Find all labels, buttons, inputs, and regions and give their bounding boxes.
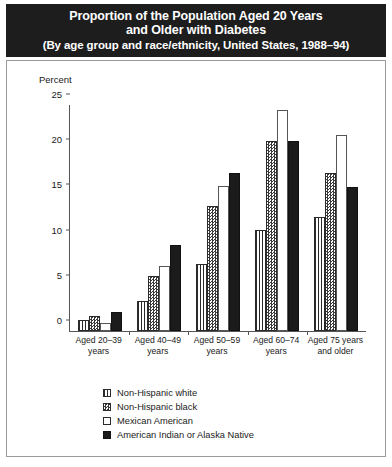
y-axis-tick-label: 25	[51, 89, 62, 100]
bar	[314, 217, 325, 331]
legend-label: American Indian or Alaska Native	[117, 430, 254, 440]
y-axis-unit-label: Percent	[39, 74, 72, 85]
bar-group	[70, 105, 129, 331]
x-axis-label-line: and older	[306, 346, 365, 357]
chart-page: Proportion of the Population Aged 20 Yea…	[0, 0, 392, 467]
bar	[100, 323, 111, 331]
bar	[78, 320, 89, 331]
x-axis-label: Aged 20–39years	[69, 335, 128, 357]
y-axis-tick: 10	[51, 224, 70, 235]
page-title-line-2: and Older with Diabetes	[126, 23, 266, 38]
bar	[196, 264, 207, 331]
plot-wrapper: Percent 0510152025 Aged 20–39yearsAged 4…	[7, 61, 387, 458]
x-axis-label-line: Aged 60–74	[247, 335, 306, 346]
x-axis-label-line: years	[69, 346, 128, 357]
bar	[148, 276, 159, 331]
x-axis-label: Aged 75 yearsand older	[306, 335, 365, 357]
bar	[325, 173, 336, 331]
x-axis-label-line: years	[128, 346, 187, 357]
bar-group	[129, 105, 188, 331]
bar	[266, 141, 277, 331]
legend-item[interactable]: Mexican American	[103, 414, 343, 428]
y-axis-tick: 0	[57, 315, 70, 326]
page-subtitle: (By age group and race/ethnicity, United…	[43, 38, 350, 53]
legend-swatch-icon	[103, 417, 111, 425]
y-axis-tick-label: 20	[51, 134, 62, 145]
x-axis-label-line: years	[247, 346, 306, 357]
bar	[89, 316, 100, 331]
bar	[229, 173, 240, 331]
x-axis-label-line: Aged 50–59	[187, 335, 246, 346]
bar-group	[248, 105, 307, 331]
y-axis-tick-label: 5	[57, 269, 62, 280]
chart-title-banner: Proportion of the Population Aged 20 Yea…	[6, 4, 386, 57]
bar	[347, 187, 358, 331]
y-axis-tick-label: 15	[51, 179, 62, 190]
x-axis-label: Aged 40–49years	[128, 335, 187, 357]
y-axis-tick: 5	[57, 269, 70, 280]
legend-label: Non-Hispanic white	[117, 388, 197, 398]
legend-item[interactable]: Non-Hispanic white	[103, 386, 343, 400]
legend-swatch-icon	[103, 389, 111, 397]
chart-frame: Percent 0510152025 Aged 20–39yearsAged 4…	[6, 60, 386, 457]
y-axis-tick: 25	[51, 89, 70, 100]
x-axis-label-line: Aged 75 years	[306, 335, 365, 346]
x-axis-label-line: years	[187, 346, 246, 357]
bar	[255, 230, 266, 331]
chart-legend: Non-Hispanic whiteNon-Hispanic blackMexi…	[103, 386, 343, 442]
y-axis-tick: 15	[51, 179, 70, 190]
legend-label: Mexican American	[117, 416, 193, 426]
bar	[218, 186, 229, 331]
legend-swatch-icon	[103, 431, 111, 439]
x-axis-label-line: Aged 40–49	[128, 335, 187, 346]
bar	[111, 312, 122, 331]
x-axis-label-line: Aged 20–39	[69, 335, 128, 346]
legend-label: Non-Hispanic black	[117, 402, 197, 412]
bar	[288, 141, 299, 331]
bar	[137, 301, 148, 331]
bar	[207, 206, 218, 331]
page-title-line-1: Proportion of the Population Aged 20 Yea…	[69, 9, 322, 24]
y-axis-tick-mark	[66, 94, 70, 95]
bar	[159, 266, 170, 331]
bar	[336, 135, 347, 331]
x-axis-label: Aged 50–59years	[187, 335, 246, 357]
bar-group	[188, 105, 247, 331]
legend-swatch-icon	[103, 403, 111, 411]
y-axis-tick-label: 0	[57, 315, 62, 326]
bar-group	[307, 105, 366, 331]
legend-item[interactable]: American Indian or Alaska Native	[103, 428, 343, 442]
bar	[170, 245, 181, 331]
plot-area: 0510152025	[69, 105, 366, 332]
y-axis-tick-label: 10	[51, 224, 62, 235]
bar	[277, 110, 288, 331]
legend-item[interactable]: Non-Hispanic black	[103, 400, 343, 414]
x-axis-label: Aged 60–74years	[247, 335, 306, 357]
y-axis-tick: 20	[51, 134, 70, 145]
bar-groups	[70, 105, 366, 331]
x-axis-labels: Aged 20–39yearsAged 40–49yearsAged 50–59…	[69, 335, 365, 357]
